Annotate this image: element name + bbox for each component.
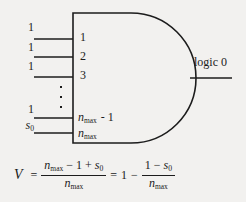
gate-pin-label-nmax: nmax [78, 127, 97, 140]
max-subscript: max [155, 182, 168, 191]
constant-one: 1 [121, 168, 127, 183]
max-subscript: max [50, 164, 63, 173]
fraction-1-denominator: nmax [61, 176, 86, 191]
fraction-1: nmax−1+s0 nmax [41, 159, 106, 191]
equals-sign-1: = [31, 168, 38, 183]
plus-sign: + [85, 158, 92, 172]
input-signal-label-2: 1 [22, 41, 34, 53]
output-label-logic-0: logic 0 [194, 56, 227, 68]
input-signal-label-3: 1 [22, 60, 34, 72]
figure-canvas: 1 1 1 1 s0 1 2 3 nmax- 1 nmax logic 0 V … [0, 0, 246, 202]
gate-pin-label-nmax-minus-1: nmax- 1 [78, 111, 114, 124]
input-signal-label-1: 1 [22, 21, 34, 33]
one-text: 1 [76, 158, 82, 172]
equals-sign-2: = [110, 168, 117, 183]
gate-pin-label-1: 1 [80, 31, 86, 43]
minus-sign-main: − [131, 168, 138, 183]
input-signal-label-4: 1 [22, 103, 34, 115]
max-subscript: max [84, 116, 97, 125]
input-signal-label-s0: s0 [16, 119, 34, 133]
zero-subscript: 0 [168, 164, 172, 173]
gate-pin-label-2: 2 [80, 50, 86, 62]
max-subscript: max [70, 182, 83, 191]
fraction-2-numerator: 1−s0 [142, 159, 175, 175]
max-subscript: max [84, 132, 97, 141]
minus-one-text: - 1 [101, 110, 114, 124]
fraction-2: 1−s0 nmax [142, 159, 175, 191]
ellipsis-dot [60, 106, 62, 108]
s-subscript: 0 [30, 124, 34, 133]
equation: V = nmax−1+s0 nmax = 1 − 1−s0 nmax [14, 152, 232, 198]
minus-sign: − [154, 158, 161, 172]
zero-subscript: 0 [99, 164, 103, 173]
gate-pin-label-3: 3 [80, 69, 86, 81]
fraction-1-numerator: nmax−1+s0 [41, 159, 106, 175]
minus-sign: − [66, 158, 73, 172]
fraction-2-denominator: nmax [146, 176, 171, 191]
ellipsis-dot [60, 96, 62, 98]
one-text: 1 [145, 158, 151, 172]
equation-variable-v: V [14, 167, 23, 183]
ellipsis-dot [60, 86, 62, 88]
